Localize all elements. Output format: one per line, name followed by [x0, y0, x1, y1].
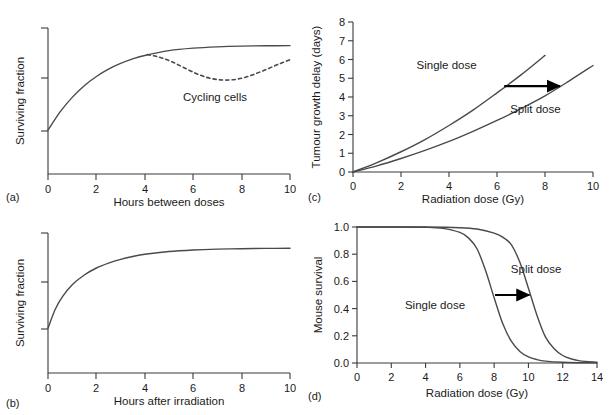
x-tick-label: 2 — [93, 382, 99, 394]
panel-b-axes — [41, 233, 290, 379]
panel-c-plot: 012345678 0246810 Single dose Split dose… — [300, 0, 616, 208]
y-tick-label: 2 — [339, 129, 345, 141]
panel-d-plot: 0.00.20.40.60.81.0 02468101214 Split dos… — [300, 205, 616, 415]
y-tick-label: 8 — [339, 16, 345, 28]
panel-a: 0 2 4 6 8 10 Cycling cells Hours between… — [0, 0, 308, 208]
x-tick-label: 2 — [398, 180, 404, 192]
x-tick-label: 12 — [557, 371, 569, 383]
y-tick-label: 3 — [339, 110, 345, 122]
panel-c-xticks — [353, 172, 593, 177]
annotation-split-dose: Split dose — [511, 263, 562, 275]
axis-lines — [48, 233, 290, 373]
panel-b-tag-svg: (b) — [6, 394, 46, 412]
y-axis-label: Tumour growth delay (days) — [310, 25, 322, 168]
panel-c-tag-svg: (c) — [308, 188, 348, 206]
y-axis-label: Mouse survival — [312, 257, 324, 334]
y-tick-label: 5 — [339, 72, 345, 84]
figure-container: 0 2 4 6 8 10 Cycling cells Hours between… — [0, 0, 616, 415]
x-tick-label: 4 — [142, 382, 148, 394]
y-tick-label: 4 — [339, 91, 345, 103]
y-tick-label: 0.8 — [334, 248, 349, 260]
y-tick-label: 0.2 — [334, 330, 349, 342]
annotation-single-dose: Single dose — [405, 299, 465, 311]
y-tick-label: 7 — [339, 35, 345, 47]
x-tick-label: 8 — [239, 382, 245, 394]
panel-d-xticklabels: 02468101214 — [354, 371, 603, 383]
x-tick-label: 0 — [354, 371, 360, 383]
x-tick-label: 10 — [284, 382, 296, 394]
panel-d-xticks — [357, 363, 597, 368]
y-tick-label: 6 — [339, 54, 345, 66]
curve-cycling-cells — [147, 55, 290, 81]
x-axis-label: Radiation dose (Gy) — [426, 387, 528, 399]
y-tick-label: 1.0 — [334, 221, 349, 233]
x-tick-label: 6 — [494, 180, 500, 192]
panel-c-yticks — [348, 22, 353, 172]
curve-split-dose — [357, 227, 597, 362]
panel-b: 0 2 4 6 8 10 Hours after irradiation Sur… — [0, 205, 308, 415]
panel-d: 0.00.20.40.60.81.0 02468101214 Split dos… — [300, 205, 616, 415]
annotation-single-dose: Single dose — [417, 59, 477, 71]
x-tick-label: 0 — [45, 382, 51, 394]
y-tick-label: 0 — [339, 166, 345, 178]
x-axis-label: Radiation dose (Gy) — [422, 193, 524, 205]
y-tick-label: 0.4 — [334, 303, 349, 315]
x-tick-label: 2 — [388, 371, 394, 383]
panel-a-plot: 0 2 4 6 8 10 Cycling cells Hours between… — [0, 0, 308, 208]
annotation-cycling-cells: Cycling cells — [183, 91, 247, 103]
x-axis-label: Hours after irradiation — [114, 395, 225, 407]
panel-label: (d) — [308, 390, 321, 402]
x-tick-label: 10 — [522, 371, 534, 383]
y-tick-label: 0.0 — [334, 357, 349, 369]
panel-d-yticks — [352, 227, 357, 363]
curve-recovery — [48, 248, 290, 328]
panel-label: (a) — [6, 191, 19, 203]
panel-d-yticklabels: 0.00.20.40.60.81.0 — [334, 221, 349, 369]
panel-a-tag-svg: (a) — [6, 188, 46, 206]
panel-c-axes — [348, 22, 593, 177]
x-tick-label: 2 — [93, 183, 99, 195]
x-tick-label: 8 — [542, 180, 548, 192]
y-tick-label: 0.6 — [334, 275, 349, 287]
curve-single-dose — [357, 227, 597, 363]
x-tick-label: 6 — [457, 371, 463, 383]
x-tick-label: 8 — [491, 371, 497, 383]
panel-c-yticklabels: 012345678 — [339, 16, 345, 178]
y-axis-label: Surviving fraction — [14, 259, 26, 347]
panel-d-tag-svg: (d) — [308, 387, 348, 405]
axis-lines — [353, 22, 593, 172]
panel-b-plot: 0 2 4 6 8 10 Hours after irradiation Sur… — [0, 205, 308, 415]
x-tick-label: 10 — [284, 183, 296, 195]
x-tick-label: 8 — [239, 183, 245, 195]
panel-label: (c) — [308, 191, 321, 203]
x-tick-label: 10 — [587, 180, 599, 192]
panel-c: 012345678 0246810 Single dose Split dose… — [300, 0, 616, 208]
x-tick-label: 4 — [423, 371, 429, 383]
x-tick-label: 6 — [190, 183, 196, 195]
y-tick-label: 1 — [339, 147, 345, 159]
panel-a-xticklabels: 0 2 4 6 8 10 — [45, 183, 296, 195]
axis-lines — [48, 28, 290, 174]
x-tick-label: 4 — [142, 183, 148, 195]
annotation-split-dose: Split dose — [510, 103, 561, 115]
curve-split-dose — [353, 66, 593, 173]
panel-d-axes — [352, 227, 597, 368]
x-tick-label: 6 — [190, 382, 196, 394]
panel-b-xticklabels: 0 2 4 6 8 10 — [45, 382, 296, 394]
panel-label: (b) — [6, 397, 19, 409]
x-tick-label: 0 — [350, 180, 356, 192]
panel-c-xticklabels: 0246810 — [350, 180, 599, 192]
y-axis-label: Surviving fraction — [14, 57, 26, 145]
x-tick-label: 4 — [446, 180, 452, 192]
curve-repair — [48, 46, 290, 131]
x-tick-label: 14 — [591, 371, 603, 383]
